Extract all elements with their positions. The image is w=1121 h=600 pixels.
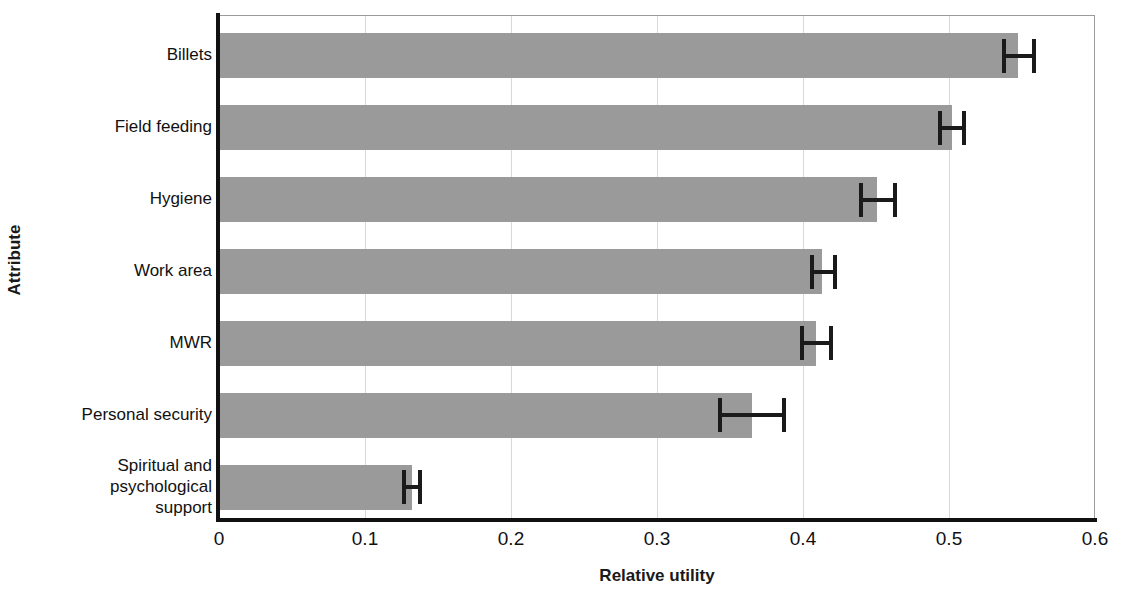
bar <box>219 465 412 510</box>
y-axis-tick-label-line: support <box>32 497 212 518</box>
y-axis-tick-label-line: Personal security <box>32 404 212 425</box>
error-bar-cap-low <box>938 111 942 145</box>
y-axis-tick-label-line: MWR <box>32 332 212 353</box>
error-bar-line <box>812 270 835 274</box>
error-bar-cap-high <box>782 398 786 432</box>
x-axis-tick-label: 0.4 <box>763 528 843 550</box>
y-axis-tick-label-line: Spiritual and <box>32 455 212 476</box>
error-bar-cap-low <box>402 470 406 504</box>
error-bar-line <box>861 198 895 202</box>
y-axis-title-text: Attribute <box>5 225 25 296</box>
x-axis-title: Relative utility <box>219 566 1095 586</box>
bar <box>219 33 1018 78</box>
y-axis-tick-label-line: Field feeding <box>32 116 212 137</box>
y-axis-tick-label-line: Hygiene <box>32 188 212 209</box>
x-axis-tick-label: 0.5 <box>909 528 989 550</box>
x-axis-tick-label: 0 <box>179 528 259 550</box>
y-axis-tick-label: Hygiene <box>32 188 212 209</box>
y-axis-category-labels: BilletsField feedingHygieneWork areaMWRP… <box>32 15 212 518</box>
error-bar-cap-low <box>800 326 804 360</box>
bar <box>219 105 952 150</box>
error-bar-line <box>1004 54 1033 58</box>
bar <box>219 393 752 438</box>
x-axis-tick-label: 0.1 <box>325 528 405 550</box>
bar <box>219 321 816 366</box>
y-axis-tick-label: Billets <box>32 44 212 65</box>
error-bar-cap-low <box>810 255 814 289</box>
error-bar-line <box>802 341 831 345</box>
y-axis-tick-label: MWR <box>32 332 212 353</box>
x-axis-tick-label: 0.6 <box>1055 528 1121 550</box>
y-axis-tick-label: Work area <box>32 260 212 281</box>
error-bar-line <box>720 413 784 417</box>
gridline <box>949 16 950 519</box>
y-axis-tick-label: Field feeding <box>32 116 212 137</box>
error-bar-cap-low <box>718 398 722 432</box>
error-bar-cap-low <box>859 183 863 217</box>
x-axis-tick-label: 0.2 <box>471 528 551 550</box>
y-axis-tick-label-line: Work area <box>32 260 212 281</box>
plot-area <box>219 15 1095 518</box>
error-bar-cap-high <box>833 255 837 289</box>
error-bar-cap-low <box>1002 39 1006 73</box>
error-bar-cap-high <box>418 470 422 504</box>
x-axis-line <box>216 518 1097 522</box>
error-bar-cap-high <box>1032 39 1036 73</box>
bar <box>219 177 877 222</box>
error-bar-line <box>940 126 963 130</box>
error-bar-cap-high <box>962 111 966 145</box>
bar-chart: Attribute BilletsField feedingHygieneWor… <box>0 0 1121 600</box>
y-axis-tick-label: Personal security <box>32 404 212 425</box>
x-axis-tick-label: 0.3 <box>617 528 697 550</box>
y-axis-tick-label-line: Billets <box>32 44 212 65</box>
error-bar-cap-high <box>893 183 897 217</box>
y-axis-tick-label-line: psychological <box>32 476 212 497</box>
y-axis-line <box>216 13 220 522</box>
error-bar-cap-high <box>829 326 833 360</box>
x-axis-tick-labels: 00.10.20.30.40.50.6 <box>0 528 1121 556</box>
y-axis-tick-label: Spiritual andpsychologicalsupport <box>32 455 212 518</box>
bar <box>219 249 822 294</box>
y-axis-title: Attribute <box>0 0 30 520</box>
